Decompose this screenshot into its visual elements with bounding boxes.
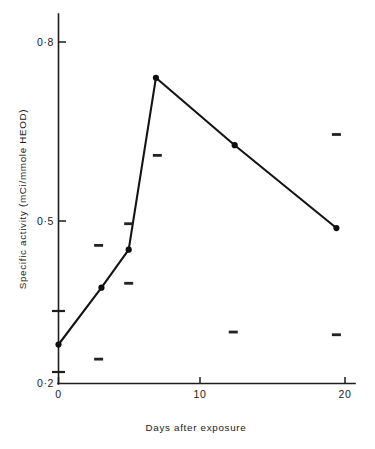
scan-speck <box>124 282 133 285</box>
data-point <box>126 247 132 253</box>
scan-speck <box>94 358 103 361</box>
scan-speck <box>94 244 103 247</box>
y-tick-label-0-8: 0·8 <box>37 36 54 48</box>
scan-speck <box>332 133 341 136</box>
scan-speck <box>124 222 133 225</box>
y-tick-label-0-2: 0·2 <box>37 377 54 389</box>
y-tick-label-0-5: 0·5 <box>37 215 54 227</box>
axes-group <box>58 14 355 384</box>
line-chart-figure: 0·8 0·5 0·2 0 10 20 Specific activity (m… <box>0 0 375 449</box>
series-line-specific-activity <box>59 78 337 345</box>
chart-canvas: 0·8 0·5 0·2 0 10 20 Specific activity (m… <box>0 0 375 449</box>
scan-specks-group <box>94 0 341 361</box>
data-point <box>98 285 104 291</box>
scan-speck <box>229 331 238 334</box>
data-point <box>153 75 159 81</box>
x-tick-label-0: 0 <box>55 388 61 400</box>
data-point <box>55 341 61 347</box>
scan-speck <box>153 154 162 157</box>
x-axis-title: Days after exposure <box>146 422 247 433</box>
x-tick-label-10: 10 <box>194 388 207 400</box>
y-axis-title: Specific activity (mCi/mmole HEOD) <box>17 109 28 290</box>
data-series-group <box>55 75 339 348</box>
scan-speck <box>332 333 341 336</box>
x-axis-ticks <box>59 377 346 384</box>
data-point <box>232 142 238 148</box>
data-point <box>333 225 339 231</box>
series-markers-group <box>55 75 339 348</box>
x-tick-label-20: 20 <box>339 388 352 400</box>
